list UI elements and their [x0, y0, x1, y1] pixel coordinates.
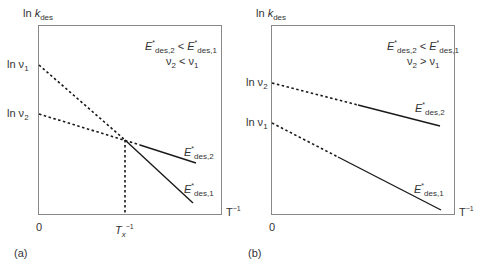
panel-a-ytick-1: ln ν1 [7, 58, 29, 75]
panel-a-ytick-2: ln ν2 [7, 107, 29, 124]
panel-b-line-e2-label: E*des,2 [415, 99, 445, 119]
panel-a-line-e2-label: E*des,2 [184, 143, 214, 163]
panel-b-nu1-dashed [272, 123, 338, 157]
panel-a-tag: (a) [14, 247, 27, 259]
panel-a-line-e1 [125, 140, 193, 203]
panel-a-y-axis-label: ln kdes [23, 7, 53, 24]
panel-a-origin-label: 0 [36, 221, 42, 233]
panel-b-nu2-dashed [272, 83, 358, 105]
panel-b-ytick-2: ln ν1 [246, 116, 268, 133]
panel-a-condition-2: ν2 < ν1 [166, 55, 198, 72]
panel-a-condition-1: E*des,2 < E*des,1 [145, 37, 217, 57]
panel-b-ytick-1: ln ν2 [246, 76, 268, 93]
panel-b-origin-label: 0 [269, 221, 275, 233]
panel-a-x-axis-label: T−1 [226, 203, 241, 218]
panel-a-line-e1-label: E*des,1 [184, 180, 214, 200]
panel-a-nu1-dashed [39, 65, 125, 140]
panel-a-tx-label: Tx−1 [115, 221, 134, 241]
panel-b-condition-1: E*des,2 < E*des,1 [387, 37, 459, 57]
panel-b-x-axis-label: T−1 [459, 203, 474, 218]
panel-b-y-axis-label: ln kdes [256, 7, 286, 24]
panel-b-condition-2: ν2 > ν1 [407, 55, 439, 72]
panel-b-tag: (b) [248, 247, 261, 259]
panel-b-line-e1-label: E*des,1 [414, 180, 444, 200]
